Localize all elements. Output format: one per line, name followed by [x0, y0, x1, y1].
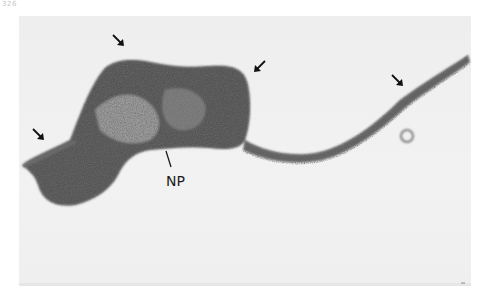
arrow-marker-right: [391, 74, 405, 88]
arrow-marker-top: [112, 34, 126, 48]
corner-mark: [461, 282, 465, 284]
nuclear-envelope-specimen: [0, 0, 486, 303]
arrow-marker-middle: [252, 60, 266, 74]
np-pointer-line: [164, 150, 174, 170]
nuclear-pore-label: NP: [166, 173, 185, 189]
arrow-marker-left: [32, 128, 46, 142]
